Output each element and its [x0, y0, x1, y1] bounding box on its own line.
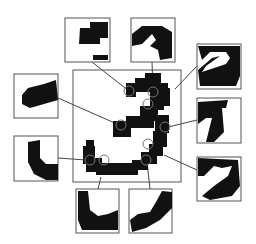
patch-left-low	[14, 136, 58, 181]
receptive-field-diagram	[0, 0, 256, 244]
patch-bottom-left	[76, 189, 119, 233]
patch-bottom-right	[129, 189, 172, 233]
patch-right-top	[197, 44, 241, 89]
patch-top-left	[65, 18, 110, 62]
patch-left	[14, 74, 58, 118]
patch-right-mid	[197, 98, 241, 143]
patch-right-bottom	[197, 157, 241, 201]
patch-top	[131, 18, 175, 62]
